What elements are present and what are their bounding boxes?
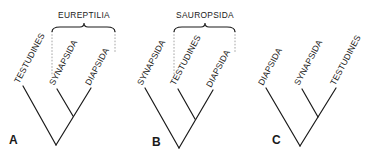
tree-b-branch-testudines <box>178 89 195 119</box>
tree-c-taxon-3: TESTUDINES <box>328 33 363 87</box>
tree-c: DIAPSIDA SYNAPSIDA TESTUDINES C <box>256 33 363 147</box>
cladogram-figure: TESTUDINES SYNAPSIDA DIAPSIDA EUREPTILIA… <box>0 0 382 154</box>
tree-b-group-brace <box>174 23 235 32</box>
tree-a-panel-label: A <box>9 133 18 147</box>
tree-b-branch-synapsida <box>145 88 179 148</box>
tree-b-taxon-3: DIAPSIDA <box>204 48 232 89</box>
tree-a-group-brace <box>52 23 115 32</box>
tree-a-group-label: EUREPTILIA <box>58 10 110 20</box>
tree-a-taxon-3: DIAPSIDA <box>83 46 111 87</box>
tree-c-branch-synapsida <box>302 89 318 117</box>
tree-a: TESTUDINES SYNAPSIDA DIAPSIDA EUREPTILIA… <box>9 10 115 147</box>
tree-b: SYNAPSIDA TESTUDINES DIAPSIDA SAUROPSIDA… <box>135 10 235 149</box>
tree-c-taxon-1: DIAPSIDA <box>256 46 284 87</box>
tree-a-branch-testudines <box>23 86 56 145</box>
tree-b-group-label: SAUROPSIDA <box>176 10 234 20</box>
tree-b-taxon-1: SYNAPSIDA <box>135 38 167 87</box>
tree-c-panel-label: C <box>272 133 281 147</box>
tree-a-taxon-1: TESTUDINES <box>12 31 47 85</box>
tree-a-branch-synapsida <box>57 89 73 116</box>
tree-c-taxon-2: SYNAPSIDA <box>292 38 324 87</box>
tree-b-taxon-2: TESTUDINES <box>168 33 203 87</box>
tree-b-panel-label: B <box>152 135 161 149</box>
